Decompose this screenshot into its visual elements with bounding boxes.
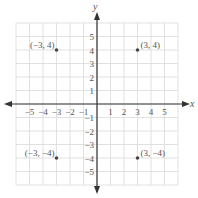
data-points: (−3, 4)(3, 4)(−3, −4)(3, −4) bbox=[25, 40, 165, 160]
y-axis-arrow-up-icon bbox=[94, 12, 100, 20]
y-tick-label: −4 bbox=[84, 154, 94, 164]
data-point bbox=[136, 156, 140, 160]
x-axis-arrow-left-icon bbox=[4, 101, 12, 107]
y-tick-label: −1 bbox=[84, 113, 94, 123]
x-tick-label: 1 bbox=[108, 107, 113, 117]
data-point bbox=[136, 48, 140, 52]
x-axis-label: x bbox=[189, 98, 195, 109]
axes: x y bbox=[4, 1, 195, 194]
y-axis-arrow-down-icon bbox=[94, 186, 100, 194]
y-tick-label: 3 bbox=[90, 59, 95, 69]
x-tick-label: 4 bbox=[149, 107, 154, 117]
x-axis-arrow-right-icon bbox=[182, 101, 190, 107]
point-label: (−3, −4) bbox=[25, 148, 55, 158]
y-tick-label: 2 bbox=[90, 73, 95, 83]
y-tick-label: 1 bbox=[90, 86, 95, 96]
x-tick-label: −2 bbox=[65, 107, 75, 117]
point-label: (3, −4) bbox=[141, 148, 166, 158]
coordinate-plane: x y −5−4−3−2−11234554321−1−2−3−4−5 (−3, … bbox=[0, 0, 198, 198]
data-point bbox=[55, 156, 59, 160]
x-tick-label: 3 bbox=[135, 107, 140, 117]
x-tick-label: −4 bbox=[38, 107, 48, 117]
point-label: (3, 4) bbox=[141, 40, 161, 50]
data-point bbox=[55, 48, 59, 52]
y-tick-label: −5 bbox=[84, 167, 94, 177]
point-label: (−3, 4) bbox=[30, 40, 55, 50]
y-tick-label: −3 bbox=[84, 140, 94, 150]
x-tick-label: 5 bbox=[162, 107, 167, 117]
y-axis-label: y bbox=[92, 1, 98, 12]
y-tick-label: −2 bbox=[84, 127, 94, 137]
x-tick-label: −5 bbox=[25, 107, 35, 117]
x-tick-label: 2 bbox=[122, 107, 127, 117]
y-tick-label: 4 bbox=[90, 46, 95, 56]
x-tick-label: −3 bbox=[52, 107, 62, 117]
y-tick-label: 5 bbox=[90, 32, 95, 42]
